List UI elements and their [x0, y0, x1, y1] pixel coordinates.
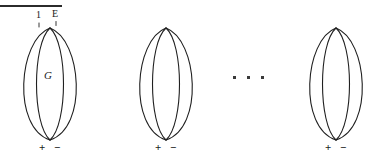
sign-label-plus: +	[155, 142, 161, 153]
ellipsis-dot	[261, 76, 264, 79]
sign-label-plus: +	[39, 142, 45, 153]
diagram-shape-1: 1 E G + −	[6, 0, 96, 159]
diagram-shape-2: + −	[122, 0, 212, 159]
bigon-outline-2	[122, 0, 212, 159]
sign-label-minus: −	[54, 142, 60, 153]
right-ellipse-inner-arc	[37, 28, 51, 140]
sign-label-minus: −	[170, 142, 176, 153]
figure-canvas: 1 E G + − + −	[0, 0, 384, 159]
ellipsis-dot	[247, 76, 250, 79]
left-ellipse-inner-arc	[336, 28, 350, 140]
edge-label-top-right: E	[52, 9, 58, 19]
ellipsis	[233, 76, 264, 79]
diagram-shape-3: + −	[292, 0, 384, 159]
left-ellipse-inner-arc	[166, 28, 180, 140]
right-ellipse-inner-arc	[153, 28, 167, 140]
edge-label-top-left: 1	[36, 10, 41, 20]
left-ellipse-inner-arc	[50, 28, 64, 140]
graph-label-interior: G	[44, 70, 52, 81]
bigon-outline-3	[292, 0, 384, 159]
ellipsis-dot	[233, 76, 236, 79]
sign-label-plus: +	[325, 142, 331, 153]
right-ellipse-inner-arc	[323, 28, 337, 140]
sign-label-minus: −	[340, 142, 346, 153]
